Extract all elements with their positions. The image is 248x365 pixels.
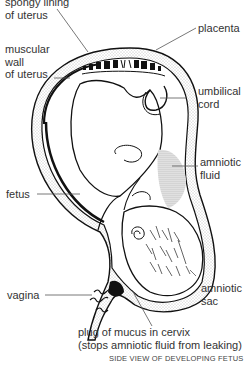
label-line: cord bbox=[198, 98, 241, 111]
label-line: umbilical bbox=[198, 85, 241, 98]
label-line: fluid bbox=[200, 169, 241, 182]
label-line: of uterus bbox=[5, 68, 50, 81]
label-line: spongy lining bbox=[5, 0, 69, 9]
label-line: muscular bbox=[5, 43, 50, 56]
label-muscular-wall: muscular wall of uterus bbox=[5, 43, 50, 81]
label-line: wall bbox=[5, 56, 50, 69]
diagram-caption: SIDE VIEW OF DEVELOPING FETUS bbox=[109, 354, 244, 363]
label-line: amniotic bbox=[201, 282, 242, 295]
label-spongy-lining: spongy lining of uterus bbox=[5, 0, 69, 21]
label-line: sac bbox=[201, 295, 242, 308]
label-fetus: fetus bbox=[6, 188, 30, 201]
label-umbilical-cord: umbilical cord bbox=[198, 85, 241, 110]
label-line: amniotic bbox=[200, 156, 241, 169]
label-line: of uterus bbox=[5, 9, 69, 22]
label-placenta: placenta bbox=[198, 22, 240, 35]
label-mucus-plug: plug of mucus in cervix (stops amniotic … bbox=[78, 326, 242, 351]
label-vagina: vagina bbox=[7, 289, 39, 302]
label-line: (stops amniotic fluid from leaking) bbox=[78, 339, 242, 352]
label-amniotic-sac: amniotic sac bbox=[201, 282, 242, 307]
label-line: plug of mucus in cervix bbox=[78, 326, 242, 339]
label-amniotic-fluid: amniotic fluid bbox=[200, 156, 241, 181]
